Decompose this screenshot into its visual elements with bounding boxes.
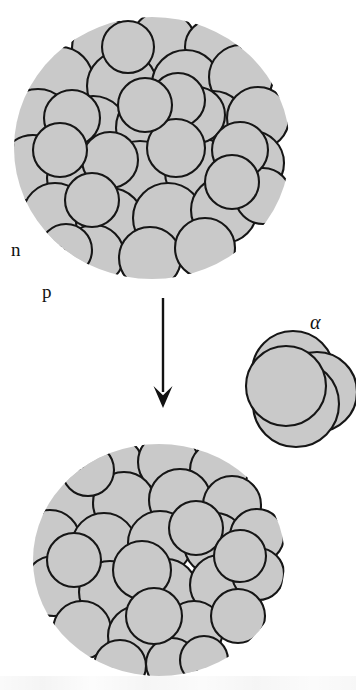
nucleon — [33, 123, 87, 177]
nucleon — [211, 589, 265, 643]
nucleon — [214, 530, 266, 582]
daughter-nucleus — [20, 432, 284, 692]
nucleon — [47, 533, 101, 587]
nucleon — [65, 173, 119, 227]
parent-nucleus — [0, 11, 291, 289]
nucleon — [102, 21, 154, 73]
nucleon — [246, 346, 326, 426]
nucleon — [205, 155, 259, 209]
nucleon — [126, 588, 182, 644]
alpha-particle-label: α — [310, 312, 321, 332]
nucleus-decay-illustration — [0, 0, 356, 698]
nucleon — [119, 227, 181, 289]
nucleon — [62, 444, 114, 496]
neutron-label: n — [11, 240, 21, 259]
alpha-particle — [246, 331, 356, 447]
nucleon — [175, 218, 235, 278]
proton-label: p — [42, 282, 52, 301]
nucleon — [94, 640, 146, 692]
decay-arrow-down — [154, 298, 173, 408]
nucleon — [40, 224, 92, 276]
nucleon — [180, 636, 228, 684]
nucleon — [118, 78, 172, 132]
nucleus-decay-figure: n p α — [0, 0, 356, 698]
